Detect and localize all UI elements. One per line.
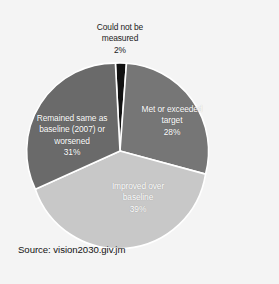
pie-label-percent: 2% (60, 45, 180, 56)
pie-plot-area: Could not be measured 2% Met or exceeded… (0, 0, 279, 284)
pie-label-could-not-be-measured: Could not be measured 2% (60, 22, 180, 56)
pie-chart-figure: Could not be measured 2% Met or exceeded… (0, 0, 279, 284)
source-note: Source: vision2030.giv.jm (18, 243, 125, 256)
pie-label-line: measured (60, 33, 180, 44)
pie-label-line: Could not be (60, 22, 180, 33)
